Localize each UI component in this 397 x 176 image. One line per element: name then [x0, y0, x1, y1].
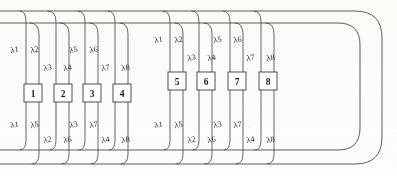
lambda-label-tr-8: λ8: [266, 53, 276, 63]
lambda-label-bl-3: λ3: [69, 120, 79, 130]
node-label-5: 5: [175, 77, 180, 87]
drop-line-n5-b: [175, 23, 183, 72]
lambda-label-bl-1: λ1: [10, 120, 20, 130]
lambda-label-tr-2: λ2: [174, 35, 184, 45]
lambda-label-tl-6: λ4: [63, 63, 73, 73]
node-label-3: 3: [90, 89, 95, 99]
drop-line-n3-c: [79, 102, 85, 150]
drop-line-n5-c: [164, 90, 170, 150]
drop-line-n4-d: [121, 102, 128, 164]
drop-line-n7-b: [235, 23, 243, 72]
lambda-label-bl-2: λ5: [30, 120, 40, 130]
drop-line-n1-a: [20, 11, 26, 84]
node-box-2[interactable]: 2: [54, 84, 72, 102]
lambda-label-tr-1: λ1: [154, 35, 164, 45]
node-box-8[interactable]: 8: [259, 72, 277, 90]
lambda-label-br-5: λ2: [187, 135, 197, 145]
node-box-6[interactable]: 6: [197, 72, 215, 90]
drop-line-n7-c: [224, 90, 230, 150]
lambda-label-bl-4: λ7: [89, 120, 99, 130]
node-box-3[interactable]: 3: [83, 84, 101, 102]
wavelength-labels-bottom-left: λ1 λ5 λ3 λ7 λ2 λ6 λ4 λ8: [10, 120, 131, 145]
drop-line-n2-a: [48, 11, 56, 84]
lambda-label-tl-7: λ7: [101, 63, 111, 73]
drop-line-n6-d: [205, 90, 212, 164]
lambda-label-tl-3: λ5: [69, 45, 79, 55]
lambda-label-bl-8: λ8: [121, 135, 131, 145]
drop-line-n8-a: [254, 11, 261, 72]
node-box-5[interactable]: 5: [168, 72, 186, 90]
node-label-2: 2: [61, 89, 66, 99]
lambda-label-tl-1: λ1: [10, 45, 20, 55]
drop-line-n1-c: [20, 102, 26, 150]
wavelength-labels-top-right: λ1 λ2 λ5 λ6 λ3 λ4 λ7 λ8: [154, 35, 276, 63]
lambda-label-tr-7: λ7: [246, 53, 256, 63]
drop-line-n6-b: [204, 23, 212, 72]
lambda-label-bl-5: λ2: [43, 135, 53, 145]
wdm-dual-bus-figure: 1 2 3 4 5 6 7: [0, 0, 397, 176]
drop-line-n4-a: [108, 11, 115, 84]
lambda-label-tl-5: λ3: [43, 63, 53, 73]
drop-line-n6-a: [192, 11, 199, 72]
drop-line-n8-b: [266, 23, 274, 72]
node-label-7: 7: [235, 77, 240, 87]
wavelength-labels-top-left: λ1 λ2 λ5 λ6 λ3 λ4 λ7 λ8: [10, 45, 131, 73]
diagram-canvas: 1 2 3 4 5 6 7: [0, 0, 397, 176]
lambda-label-br-7: λ4: [246, 135, 256, 145]
node-box-7[interactable]: 7: [228, 72, 246, 90]
lambda-label-tr-3: λ5: [213, 35, 223, 45]
lambda-label-bl-6: λ6: [63, 135, 73, 145]
drop-line-n4-b: [120, 23, 128, 84]
drop-line-n8-d: [267, 90, 274, 164]
wavelength-labels-bottom-right: λ1 λ5 λ3 λ7 λ2 λ6 λ4 λ8: [154, 120, 276, 145]
node-label-6: 6: [204, 77, 209, 87]
node-label-4: 4: [120, 89, 125, 99]
drop-line-n2-b: [60, 23, 69, 84]
node-box-1[interactable]: 1: [24, 84, 42, 102]
lambda-label-tr-5: λ3: [187, 53, 197, 63]
lambda-label-br-8: λ8: [266, 135, 276, 145]
drop-line-n3-d: [91, 102, 98, 164]
drop-line-n8-c: [255, 90, 261, 150]
lambda-label-tl-2: λ2: [30, 45, 40, 55]
node-boxes: 1 2 3 4 5 6 7: [24, 72, 277, 102]
node-box-4[interactable]: 4: [113, 84, 131, 102]
lambda-label-bl-7: λ4: [101, 135, 111, 145]
drop-line-n2-d: [62, 102, 69, 164]
lambda-label-br-6: λ6: [207, 135, 217, 145]
drop-line-n1-d: [32, 102, 39, 164]
lambda-label-tr-4: λ6: [233, 35, 243, 45]
node-label-1: 1: [31, 89, 36, 99]
lambda-label-tl-8: λ8: [121, 63, 131, 73]
lambda-label-br-4: λ7: [233, 120, 243, 130]
drop-line-n5-a: [163, 11, 170, 72]
lambda-label-br-2: λ5: [174, 120, 184, 130]
lambda-label-br-3: λ3: [213, 120, 223, 130]
lambda-label-tr-6: λ4: [207, 53, 217, 63]
lambda-label-br-1: λ1: [154, 120, 164, 130]
drop-line-n3-a: [78, 11, 85, 84]
node-label-8: 8: [266, 77, 271, 87]
drop-line-n7-a: [223, 11, 230, 72]
lambda-label-tl-4: λ6: [89, 45, 99, 55]
